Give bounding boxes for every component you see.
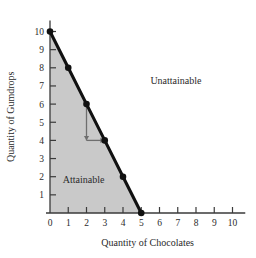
y-tick-label: 7 [39,81,44,91]
x-tick-label: 8 [194,218,199,228]
x-axis-tick-labels: 012345678910 [48,218,238,228]
frontier-point [83,101,90,108]
y-tick-label: 5 [39,118,44,128]
frontier-point [65,65,72,72]
frontier-point [138,210,145,217]
frontier-point [120,173,127,180]
y-tick-label: 1 [39,190,44,200]
y-tick-label: 6 [39,100,44,110]
x-tick-label: 5 [139,218,144,228]
frontier-point [101,137,108,144]
y-axis-title: Quantity of Gumdrops [5,71,16,162]
attainable-label: Attainable [63,174,105,185]
x-tick-label: 6 [157,218,162,228]
x-tick-label: 2 [84,218,89,228]
y-tick-label: 2 [39,172,44,182]
unattainable-label: Unattainable [150,75,202,86]
x-tick-label: 9 [212,218,217,228]
chart-figure: 012345678910 12345678910 Unattainable At… [0,0,256,258]
y-tick-label: 9 [39,45,44,55]
x-tick-label: 0 [48,218,53,228]
y-tick-label: 10 [35,27,45,37]
x-tick-label: 1 [66,218,71,228]
x-tick-label: 7 [175,218,180,228]
x-tick-label: 4 [121,218,126,228]
x-tick-label: 3 [102,218,107,228]
y-tick-label: 3 [39,154,44,164]
y-tick-label: 4 [39,136,44,146]
x-axis-title: Quantity of Chocolates [101,237,194,248]
y-tick-label: 8 [39,63,44,73]
x-tick-label: 10 [228,218,238,228]
frontier-point [47,28,54,35]
y-axis-tick-labels: 12345678910 [35,27,45,200]
ppf-chart-canvas: 012345678910 12345678910 Unattainable At… [0,0,256,258]
